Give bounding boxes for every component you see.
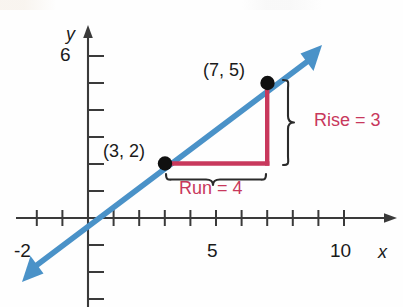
run-label: Run = 4 (179, 178, 243, 199)
point-3-2 (158, 156, 172, 170)
x-tick-label-5: 5 (207, 240, 218, 262)
rise-brace (283, 80, 294, 165)
slope-rise-run-figure: y x 6 -2 5 10 (7, 5) (3, 2) Rise = 3 Run… (0, 0, 403, 307)
x-axis-arrowhead (384, 213, 397, 223)
point-7-5 (260, 76, 274, 90)
y-axis-arrowhead (83, 25, 93, 38)
y-tick-label-6: 6 (60, 44, 71, 66)
x-tick-label-10: 10 (330, 240, 351, 262)
point-label-7-5: (7, 5) (203, 60, 245, 81)
x-axis-label: x (378, 242, 387, 263)
x-tick-label-neg2: -2 (14, 240, 31, 262)
rise-label: Rise = 3 (314, 110, 381, 131)
data-points-group (158, 76, 275, 171)
y-axis-label: y (66, 24, 75, 45)
rise-run-path-group (163, 82, 269, 166)
y-tick-marks (88, 56, 104, 299)
point-label-3-2: (3, 2) (103, 141, 145, 162)
